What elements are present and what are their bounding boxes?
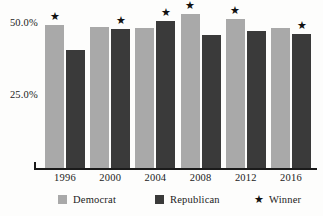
y-axis-labels: 50.0% 25.0% xyxy=(0,0,38,180)
legend-swatch-republican xyxy=(155,195,164,204)
y-tick-label-25: 25.0% xyxy=(10,89,38,100)
x-axis-labels: 199620002004200820122016 xyxy=(41,172,312,188)
winner-star-icon-1996: ★ xyxy=(48,11,62,22)
legend-item-winner: ★ Winner xyxy=(253,192,301,206)
bar-group: ★ xyxy=(135,8,179,168)
bar-republican-2008 xyxy=(202,35,221,168)
legend-item-republican: Republican xyxy=(155,192,220,206)
plot-area: ★★★★★★ xyxy=(41,8,312,168)
bar-group: ★ xyxy=(181,8,225,168)
bar-republican-2004 xyxy=(156,21,175,168)
x-tick-label-2008: 2008 xyxy=(179,172,223,183)
bar-republican-2012 xyxy=(247,31,266,168)
bar-democrat-2008 xyxy=(181,14,200,168)
winner-star-icon-2012: ★ xyxy=(228,5,242,16)
legend-item-democrat: Democrat xyxy=(58,192,116,206)
winner-star-icon-2016: ★ xyxy=(295,20,309,31)
bar-democrat-2000 xyxy=(90,27,109,168)
x-tick-label-2016: 2016 xyxy=(269,172,313,183)
bar-group: ★ xyxy=(226,8,270,168)
bar-republican-1996 xyxy=(66,50,85,168)
legend-label-democrat: Democrat xyxy=(73,194,116,205)
star-icon: ★ xyxy=(253,194,264,205)
x-tick-label-2012: 2012 xyxy=(224,172,268,183)
bar-group: ★ xyxy=(45,8,89,168)
legend-label-republican: Republican xyxy=(170,194,220,205)
x-tick-label-2004: 2004 xyxy=(133,172,177,183)
x-tick-label-2000: 2000 xyxy=(88,172,132,183)
bar-republican-2016 xyxy=(292,34,311,168)
bar-democrat-2004 xyxy=(135,28,154,169)
legend-label-winner: Winner xyxy=(269,194,301,205)
bar-democrat-1996 xyxy=(45,25,64,168)
bar-democrat-2016 xyxy=(271,28,290,168)
winner-star-icon-2000: ★ xyxy=(114,15,128,26)
x-tick-label-1996: 1996 xyxy=(43,172,87,183)
y-axis-origin-tick xyxy=(34,162,36,170)
chart-legend: Democrat Republican ★ Winner xyxy=(0,192,323,210)
bar-group: ★ xyxy=(90,8,134,168)
bar-democrat-2012 xyxy=(226,19,245,168)
winner-star-icon-2008: ★ xyxy=(183,0,197,11)
legend-swatch-democrat xyxy=(58,195,67,204)
y-tick-label-50: 50.0% xyxy=(10,17,38,28)
bar-republican-2000 xyxy=(111,29,130,168)
bar-group: ★ xyxy=(271,8,315,168)
winner-star-icon-2004: ★ xyxy=(159,7,173,18)
election-vote-share-bar-chart: 50.0% 25.0% ★★★★★★ 199620002004200820122… xyxy=(0,0,323,216)
x-axis-line xyxy=(34,168,317,170)
